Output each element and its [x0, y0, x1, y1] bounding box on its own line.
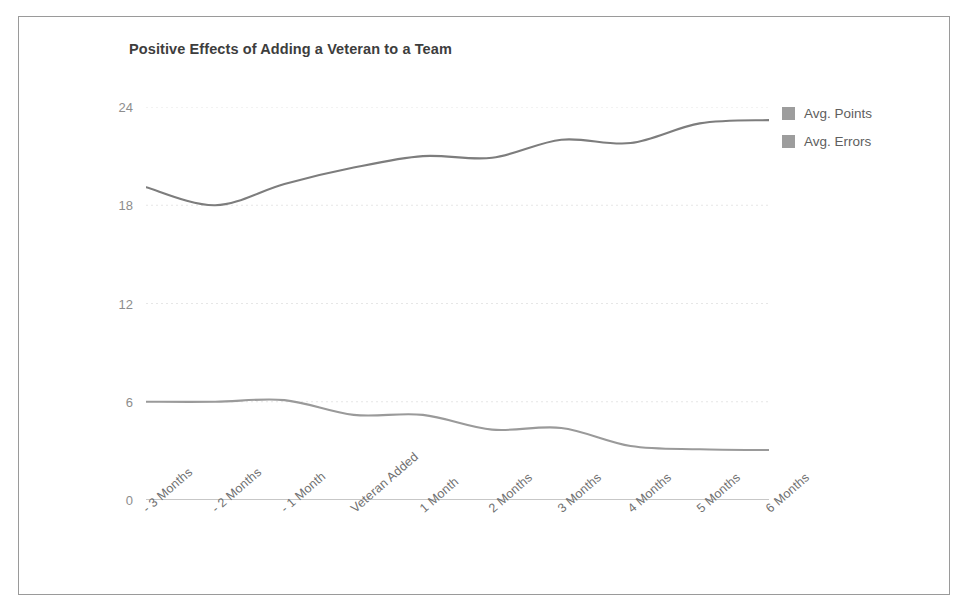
x-axis: - 3 Months- 2 Months- 1 MonthVeteran Add… — [146, 505, 786, 595]
y-tick-label: 18 — [93, 198, 133, 213]
chart-legend: Avg. PointsAvg. Errors — [782, 101, 872, 157]
legend-item: Avg. Points — [782, 101, 872, 126]
series-line-avg-points — [146, 120, 769, 205]
plot-area — [146, 107, 769, 500]
series-lines — [146, 120, 769, 450]
gridlines — [146, 107, 769, 402]
legend-item-label: Avg. Points — [804, 106, 872, 121]
y-axis: 06121824 — [81, 107, 133, 500]
legend-item-label: Avg. Errors — [804, 134, 871, 149]
legend-item: Avg. Errors — [782, 129, 872, 154]
screenshot-page: Positive Effects of Adding a Veteran to … — [0, 0, 969, 615]
square-swatch-icon — [782, 135, 795, 148]
chart-title: Positive Effects of Adding a Veteran to … — [129, 41, 452, 57]
y-tick-label: 24 — [93, 100, 133, 115]
y-tick-label: 0 — [93, 493, 133, 508]
y-tick-label: 12 — [93, 296, 133, 311]
square-swatch-icon — [782, 107, 795, 120]
x-tick-label: 6 Months — [763, 470, 812, 515]
line-chart-svg — [146, 107, 769, 500]
series-line-avg-errors — [146, 399, 769, 450]
chart-frame: Positive Effects of Adding a Veteran to … — [18, 16, 950, 595]
y-tick-label: 6 — [93, 394, 133, 409]
